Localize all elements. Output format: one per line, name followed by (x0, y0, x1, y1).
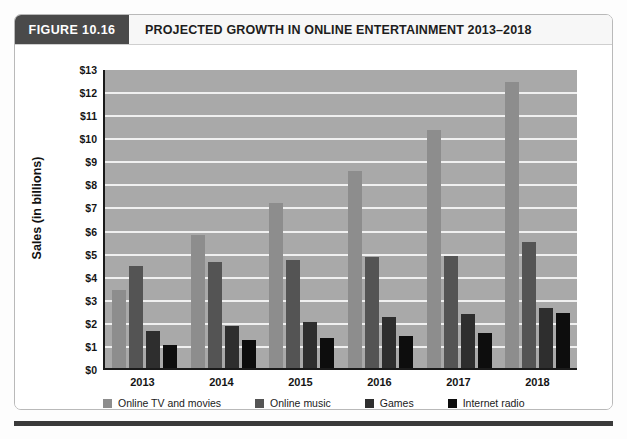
x-axis-label: 2014 (182, 372, 261, 394)
bar (505, 82, 519, 368)
y-axis-title: Sales (in billions) (30, 123, 44, 293)
chart-legend: Online TV and moviesOnline musicGamesInt… (103, 395, 577, 410)
bar-group-2017 (420, 70, 499, 368)
bar (269, 203, 283, 368)
bottom-divider (14, 421, 613, 426)
bar-groups (105, 70, 577, 368)
y-tick-label: $6 (85, 226, 97, 238)
bar (242, 340, 256, 368)
bar (427, 130, 441, 368)
bar (286, 260, 300, 368)
legend-label: Online music (270, 397, 331, 409)
bar (539, 308, 553, 368)
y-tick-label: $0 (85, 364, 97, 376)
legend-item: Online TV and movies (103, 397, 221, 409)
y-tick-label: $1 (85, 341, 97, 353)
legend-item: Games (365, 397, 414, 409)
y-tick-label: $8 (85, 179, 97, 191)
figure-frame: FIGURE 10.16 PROJECTED GROWTH IN ONLINE … (14, 14, 613, 410)
bar-group-2015 (262, 70, 341, 368)
legend-item: Online music (255, 397, 331, 409)
chart-area: Sales (in billions) $0$1$2$3$4$5$6$7$8$9… (15, 46, 613, 410)
bar (320, 338, 334, 368)
legend-item: Internet radio (448, 397, 525, 409)
bar (303, 322, 317, 368)
x-axis-label: 2013 (103, 372, 182, 394)
bar-group-2016 (341, 70, 420, 368)
legend-swatch-icon (448, 399, 457, 408)
y-axis-ticks: $0$1$2$3$4$5$6$7$8$9$10$11$12$13 (59, 70, 101, 370)
legend-swatch-icon (103, 399, 112, 408)
bar (208, 262, 222, 368)
bar (382, 317, 396, 368)
y-tick-label: $10 (79, 133, 97, 145)
x-axis-labels: 201320142015201620172018 (103, 372, 577, 394)
bar (399, 336, 413, 368)
figure-title: PROJECTED GROWTH IN ONLINE ENTERTAINMENT… (129, 15, 613, 44)
bar (112, 290, 126, 368)
bar-group-2013 (105, 70, 184, 368)
bar-group-2018 (498, 70, 577, 368)
y-tick-label: $4 (85, 272, 97, 284)
figure-number-tag: FIGURE 10.16 (15, 15, 129, 44)
bar (365, 257, 379, 368)
bar (348, 171, 362, 368)
x-axis-label: 2016 (340, 372, 419, 394)
bar (522, 242, 536, 368)
x-axis-label: 2015 (261, 372, 340, 394)
bar (146, 331, 160, 368)
bar (556, 313, 570, 368)
legend-label: Games (380, 397, 414, 409)
legend-label: Internet radio (463, 397, 525, 409)
y-tick-label: $7 (85, 202, 97, 214)
y-tick-label: $9 (85, 156, 97, 168)
y-tick-label: $2 (85, 318, 97, 330)
y-tick-label: $13 (79, 64, 97, 76)
bar (461, 314, 475, 368)
bar-group-2014 (184, 70, 263, 368)
bar (478, 333, 492, 368)
figure-container: FIGURE 10.16 PROJECTED GROWTH IN ONLINE … (0, 0, 627, 439)
plot-area (103, 70, 577, 370)
x-axis-label: 2017 (419, 372, 498, 394)
legend-label: Online TV and movies (118, 397, 221, 409)
x-axis-label: 2018 (498, 372, 577, 394)
bar (444, 256, 458, 368)
figure-header: FIGURE 10.16 PROJECTED GROWTH IN ONLINE … (15, 15, 613, 45)
y-tick-label: $12 (79, 87, 97, 99)
legend-swatch-icon (365, 399, 374, 408)
bar (163, 345, 177, 368)
y-tick-label: $11 (80, 110, 97, 122)
bar (129, 266, 143, 368)
y-tick-label: $3 (85, 295, 97, 307)
y-tick-label: $5 (85, 249, 97, 261)
bar (191, 235, 205, 368)
legend-swatch-icon (255, 399, 264, 408)
bar (225, 326, 239, 368)
